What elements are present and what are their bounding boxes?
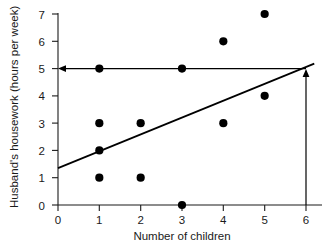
horizontal-arrow-head — [58, 65, 66, 72]
x-axis-tick-labels: 0 1 2 3 4 5 6 — [55, 214, 309, 226]
x-tick-label-2: 2 — [137, 214, 143, 226]
x-tick-label-6: 6 — [303, 214, 309, 226]
data-point — [178, 64, 186, 72]
data-point — [95, 119, 103, 127]
data-point — [261, 92, 269, 100]
data-point — [95, 64, 103, 72]
x-axis-title: Number of children — [133, 230, 230, 242]
data-point — [219, 37, 227, 45]
data-point — [137, 174, 145, 182]
data-point — [95, 146, 103, 154]
y-axis-tick-labels: 0 1 2 3 4 5 6 7 — [39, 9, 46, 212]
x-tick-label-0: 0 — [55, 214, 61, 226]
x-tick-label-5: 5 — [261, 214, 267, 226]
x-tick-label-1: 1 — [96, 214, 102, 226]
y-tick-label-6: 6 — [39, 36, 45, 48]
y-axis-ticks — [52, 14, 58, 205]
y-tick-label-5: 5 — [39, 63, 45, 75]
data-point — [261, 10, 269, 18]
y-tick-label-0: 0 — [39, 200, 45, 212]
data-point — [219, 119, 227, 127]
vertical-arrow-head — [303, 69, 310, 77]
plot-canvas: Husband's housework (hours per week) Num… — [0, 0, 336, 250]
scatter-plot-figure: Husband's housework (hours per week) Num… — [0, 0, 336, 250]
y-tick-label-7: 7 — [39, 9, 45, 21]
prediction-vertical-arrow — [303, 69, 310, 205]
y-tick-label-4: 4 — [39, 90, 46, 102]
data-point — [178, 201, 186, 209]
x-tick-label-4: 4 — [220, 214, 227, 226]
data-points-group — [95, 10, 269, 209]
y-tick-label-2: 2 — [39, 145, 45, 157]
y-tick-label-3: 3 — [39, 118, 45, 130]
data-point — [95, 174, 103, 182]
y-axis-title: Husband's housework (hours per week) — [8, 6, 20, 208]
data-point — [137, 119, 145, 127]
y-tick-label-1: 1 — [39, 172, 45, 184]
x-tick-label-3: 3 — [179, 214, 185, 226]
